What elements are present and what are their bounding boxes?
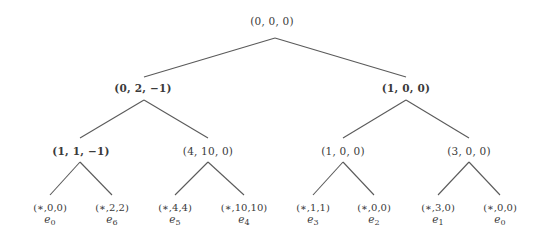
edge-l1a-left bbox=[80, 100, 144, 138]
edge-l2c-left bbox=[313, 162, 343, 195]
edge-l2a-right bbox=[80, 162, 112, 195]
edge-l1b-right bbox=[406, 100, 469, 138]
tree-edges bbox=[0, 0, 543, 237]
edge-root-right bbox=[275, 38, 406, 77]
leaf-node: (∗,4,4) e5 bbox=[158, 202, 192, 228]
edge-l1a-right bbox=[144, 100, 208, 138]
node-l2-3: (1, 0, 0) bbox=[321, 145, 364, 157]
node-l2-4: (3, 0, 0) bbox=[447, 145, 490, 157]
leaf-node: (∗,10,10) e4 bbox=[221, 202, 267, 228]
leaf-node: (∗,1,1) e3 bbox=[296, 202, 330, 228]
leaf-label: e0 bbox=[33, 214, 67, 228]
leaf-node: (∗,0,0) e0 bbox=[483, 202, 517, 228]
edge-l2b-left bbox=[175, 162, 208, 195]
edge-l2c-right bbox=[343, 162, 374, 195]
leaf-label: e3 bbox=[296, 214, 330, 228]
edge-l2a-left bbox=[50, 162, 80, 195]
leaf-label: e4 bbox=[221, 214, 267, 228]
leaf-label: e0 bbox=[483, 214, 517, 228]
edge-l2d-left bbox=[438, 162, 469, 195]
leaf-label: e2 bbox=[357, 214, 391, 228]
edge-l2d-right bbox=[469, 162, 500, 195]
leaf-node: (∗,0,0) e0 bbox=[33, 202, 67, 228]
node-l2-2: (4, 10, 0) bbox=[183, 145, 233, 157]
leaf-node: (∗,3,0) e1 bbox=[421, 202, 455, 228]
edge-l1b-left bbox=[343, 100, 406, 138]
node-l1-right: (1, 0, 0) bbox=[382, 82, 430, 94]
leaf-label: e1 bbox=[421, 214, 455, 228]
edge-l2b-right bbox=[208, 162, 244, 195]
leaf-node: (∗,0,0) e2 bbox=[357, 202, 391, 228]
leaf-label: e5 bbox=[158, 214, 192, 228]
root-node: (0, 0, 0) bbox=[250, 15, 293, 27]
tree-diagram: (0, 0, 0) (0, 2, −1) (1, 0, 0) (1, 1, −1… bbox=[0, 0, 543, 237]
node-l2-1: (1, 1, −1) bbox=[52, 145, 109, 157]
leaf-label: e6 bbox=[95, 214, 129, 228]
leaf-node: (∗,2,2) e6 bbox=[95, 202, 129, 228]
node-l1-left: (0, 2, −1) bbox=[114, 82, 171, 94]
edge-root-left bbox=[144, 38, 275, 77]
